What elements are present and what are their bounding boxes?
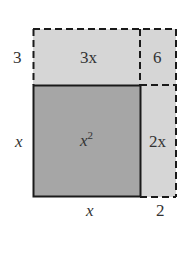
side-label-x-left: x	[15, 133, 23, 150]
region-label-2x: 2x	[149, 133, 166, 150]
region-label-3x: 3x	[80, 49, 97, 66]
side-label-3: 3	[13, 49, 22, 66]
x-squared-exponent: 2	[88, 129, 94, 141]
side-label-2: 2	[156, 202, 165, 219]
side-label-x-bottom: x	[86, 202, 94, 219]
region-label-6: 6	[153, 49, 162, 66]
area-model-diagram	[0, 0, 195, 262]
x-squared-base: x	[80, 131, 88, 150]
region-label-x-squared: x2	[80, 130, 93, 149]
